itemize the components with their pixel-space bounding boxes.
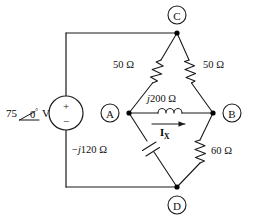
inductor-symbol xyxy=(158,109,182,114)
wire-c-to-rtr xyxy=(177,33,189,60)
resistor-top-left-symbol xyxy=(151,60,164,83)
angle-symbol-icon xyxy=(18,110,40,121)
junction-dot-d xyxy=(174,184,179,189)
capacitor-symbol xyxy=(143,142,160,156)
node-label-c: C xyxy=(168,6,186,24)
label-inductor-rest: 200 Ω xyxy=(150,93,176,104)
source-unit: V xyxy=(42,107,50,119)
source-label: 75 0° V xyxy=(6,107,50,120)
wire-cap-to-d xyxy=(154,152,177,187)
wire-c-to-rtl xyxy=(161,33,177,60)
node-label-d: D xyxy=(168,196,186,214)
node-label-a-text: A xyxy=(106,108,114,120)
wire-rbr-to-d xyxy=(177,163,200,187)
label-capacitor: −j120 Ω xyxy=(72,145,107,156)
junction-dot-a xyxy=(126,110,131,115)
resistor-top-right-symbol xyxy=(185,60,196,83)
wire-rtr-to-b xyxy=(192,83,214,113)
source-plus-sign: + xyxy=(63,100,69,112)
label-current-ix: IX xyxy=(160,127,170,141)
label-capacitor-rest: 120 Ω xyxy=(81,144,107,155)
node-label-b-text: B xyxy=(228,108,235,120)
label-current-subscript: X xyxy=(164,132,169,141)
current-arrow-ix xyxy=(152,121,185,126)
node-label-a: A xyxy=(101,104,119,122)
circuit-diagram: + − xyxy=(0,0,258,222)
junction-dot-b xyxy=(210,110,215,115)
label-resistor-top-left: 50 Ω xyxy=(113,60,134,71)
source-angle-group: 0° xyxy=(18,107,38,120)
junction-dot-c xyxy=(174,30,179,35)
label-resistor-bottom-right: 60 Ω xyxy=(211,146,232,157)
source-magnitude: 75 xyxy=(6,107,17,119)
node-label-d-text: D xyxy=(173,200,181,212)
label-inductor-center: j200 Ω xyxy=(147,94,176,105)
wire-a-to-cap xyxy=(129,113,147,141)
label-resistor-top-right: 50 Ω xyxy=(203,60,224,71)
node-label-b: B xyxy=(223,104,241,122)
node-label-c-text: C xyxy=(173,10,180,22)
wire-b-to-rbr xyxy=(200,113,213,140)
label-capacitor-sign-j: −j xyxy=(72,144,81,155)
source-minus-sign: − xyxy=(63,115,69,127)
resistor-bottom-right-symbol xyxy=(195,140,206,163)
